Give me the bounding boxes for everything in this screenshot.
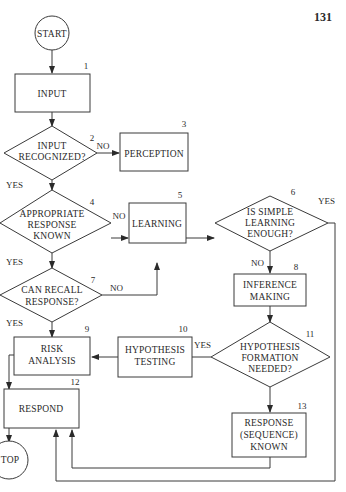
node-number-3: 3: [182, 119, 187, 129]
start-label: START: [37, 29, 67, 39]
recognized-line-1: INPUT: [38, 141, 67, 151]
edge-label-appropriate-no: NO: [113, 211, 126, 221]
edge-label-recall-yes: YES: [6, 318, 23, 328]
flowchart: 131: [0, 0, 346, 492]
node-start: START: [35, 16, 69, 50]
node-number-5: 5: [178, 190, 183, 200]
respond-label: RESPOND: [19, 404, 64, 414]
node-7-can-recall: CAN RECALL RESPONSE? 7 NO YES: [0, 268, 123, 328]
perception-label: PERCEPTION: [124, 149, 184, 159]
testing-line-2: TESTING: [135, 357, 176, 367]
formation-line-1: HYPOTHESIS: [240, 342, 300, 352]
recall-line-2: RESPONSE?: [25, 297, 79, 307]
edge-label-recognized-no: NO: [97, 141, 110, 151]
risk-line-2: ANALYSIS: [28, 356, 76, 366]
edge-label-recognized-yes: YES: [6, 180, 23, 190]
node-top: TOP: [0, 441, 28, 479]
edge-label-formation-yes: YES: [194, 340, 211, 350]
node-number-8: 8: [294, 262, 299, 272]
recognized-line-2: RECOGNIZED?: [18, 152, 85, 162]
simple-line-2: LEARNING: [245, 218, 295, 228]
node-number-13: 13: [298, 401, 308, 411]
sequence-line-1: RESPONSE: [244, 418, 293, 428]
node-10-hypothesis-testing: HYPOTHESIS TESTING 10 YES: [118, 324, 211, 377]
recall-line-1: CAN RECALL: [21, 285, 82, 295]
node-number-6: 6: [291, 187, 296, 197]
node-11-hypothesis-formation: HYPOTHESIS FORMATION NEEDED? 11: [211, 322, 330, 387]
formation-line-2: FORMATION: [241, 353, 298, 363]
learning-label: LEARNING: [132, 219, 182, 229]
node-number-7: 7: [91, 275, 96, 285]
node-2-input-recognized: INPUT RECOGNIZED? 2 NO YES: [4, 126, 110, 190]
node-3-perception: PERCEPTION 3: [120, 119, 188, 171]
page-number: 131: [314, 10, 332, 24]
node-number-12: 12: [71, 377, 80, 387]
top-label: TOP: [1, 455, 19, 465]
sequence-line-3: KNOWN: [250, 442, 287, 452]
inference-line-2: MAKING: [250, 292, 290, 302]
node-6-simple-learning: IS SIMPLE LEARNING ENOUGH? 6 YES NO: [215, 187, 335, 268]
can-recall-decision: [0, 268, 102, 322]
input-label: INPUT: [38, 89, 67, 99]
edge-label-simple-no: NO: [251, 258, 264, 268]
inference-line-1: INFERENCE: [243, 280, 297, 290]
edge-label-simple-yes: YES: [318, 196, 335, 206]
appropriate-line-1: APPROPRIATE: [19, 209, 84, 219]
simple-line-3: ENOUGH?: [247, 229, 293, 239]
node-number-10: 10: [179, 324, 189, 334]
simple-line-1: IS SIMPLE: [247, 207, 293, 217]
sequence-line-2: (SEQUENCE): [240, 430, 298, 441]
edge-label-recall-no: NO: [110, 283, 123, 293]
risk-line-1: RISK: [41, 344, 63, 354]
node-5-learning: LEARNING 5: [129, 190, 186, 243]
node-12-respond: RESPOND 12: [4, 377, 80, 428]
edge-label-appropriate-yes: YES: [6, 257, 23, 267]
node-number-11: 11: [306, 329, 315, 339]
node-number-9: 9: [85, 324, 90, 334]
node-number-2: 2: [90, 133, 95, 143]
node-number-4: 4: [90, 197, 95, 207]
formation-line-3: NEEDED?: [248, 364, 292, 374]
appropriate-line-3: KNOWN: [33, 231, 70, 241]
appropriate-line-2: RESPONSE: [27, 220, 76, 230]
edge-risk-respond: [9, 355, 14, 389]
testing-line-1: HYPOTHESIS: [125, 345, 185, 355]
node-4-appropriate-response: APPROPRIATE RESPONSE KNOWN 4 NO YES: [0, 190, 126, 267]
node-number-1: 1: [84, 61, 89, 71]
